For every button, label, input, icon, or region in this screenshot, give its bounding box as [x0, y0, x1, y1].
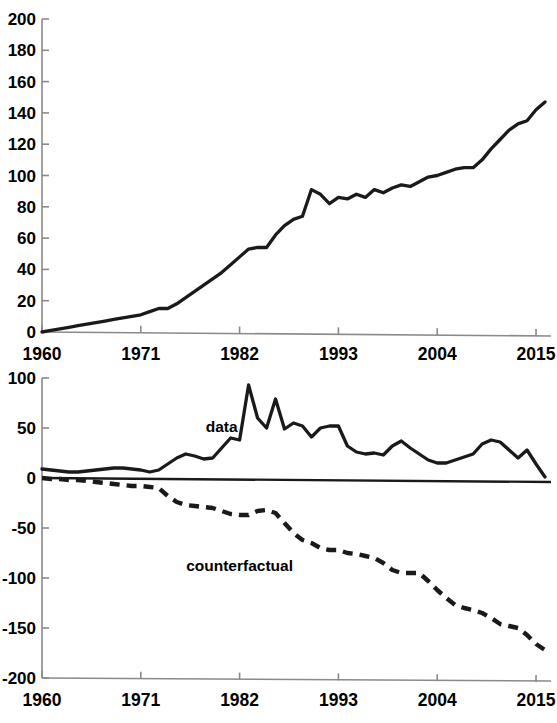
y-tick-label: 0 — [27, 469, 36, 488]
y-tick-label: 100 — [8, 167, 36, 186]
bottom-zero-line — [42, 478, 551, 482]
chart-panel-top: 020406080100120140160180200 196019711982… — [0, 0, 557, 362]
top-x-axis — [42, 332, 551, 336]
y-tick-label: 20 — [17, 292, 36, 311]
bottom-x-tick-labels: 196019711982199320042015 — [23, 690, 556, 710]
top-series-cumulative-line — [42, 102, 545, 332]
y-tick-label: -100 — [2, 569, 36, 588]
x-tick-label: 1993 — [319, 344, 358, 362]
y-tick-label: 160 — [8, 73, 36, 92]
y-tick-label: 140 — [8, 104, 36, 123]
x-tick-label: 1982 — [220, 690, 259, 710]
series-annotation-counterfactual: counterfactual — [186, 557, 293, 574]
bottom-chart-svg: -200-150-100-50050100 196019711982199320… — [0, 361, 557, 723]
top-x-tick-labels: 196019711982199320042015 — [23, 344, 556, 362]
y-tick-label: -200 — [2, 669, 36, 688]
x-tick-label: 1971 — [121, 690, 160, 710]
top-chart-svg: 020406080100120140160180200 196019711982… — [0, 0, 557, 362]
y-tick-label: 50 — [17, 419, 36, 438]
y-tick-label: -150 — [2, 619, 36, 638]
bottom-x-axis — [42, 678, 551, 681]
x-tick-label: 1971 — [121, 344, 160, 362]
chart-panel-bottom: -200-150-100-50050100 196019711982199320… — [0, 361, 557, 723]
bottom-series-counterfactual-line — [42, 478, 545, 650]
x-tick-label: 2015 — [517, 344, 556, 362]
y-tick-label: 60 — [17, 229, 36, 248]
x-tick-label: 1960 — [23, 690, 62, 710]
x-tick-label: 1982 — [220, 344, 259, 362]
y-tick-label: -50 — [11, 519, 36, 538]
y-tick-label: 120 — [8, 135, 36, 154]
x-tick-label: 2004 — [418, 690, 457, 710]
bottom-series-data-line — [42, 385, 545, 477]
top-y-tick-labels: 020406080100120140160180200 — [8, 10, 36, 342]
figure-container: 020406080100120140160180200 196019711982… — [0, 0, 557, 723]
x-tick-label: 2004 — [418, 344, 457, 362]
y-tick-label: 40 — [17, 260, 36, 279]
x-tick-label: 1993 — [319, 690, 358, 710]
x-tick-label: 2015 — [517, 690, 556, 710]
series-annotation-data: data — [206, 418, 238, 435]
x-tick-label: 1960 — [23, 344, 62, 362]
y-tick-label: 80 — [17, 198, 36, 217]
y-tick-label: 0 — [27, 323, 36, 342]
top-tick-marks — [42, 19, 536, 336]
y-tick-label: 180 — [8, 41, 36, 60]
bottom-y-tick-labels: -200-150-100-50050100 — [2, 369, 36, 688]
y-tick-label: 100 — [8, 369, 36, 388]
y-tick-label: 200 — [8, 10, 36, 29]
